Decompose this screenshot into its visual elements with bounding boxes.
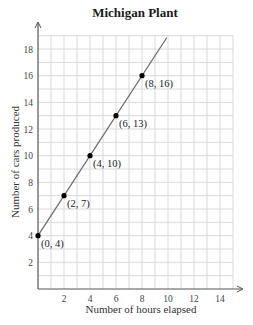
data-point-label: (6, 13) [119,118,147,130]
tick-labels: 246810121424681012141618 [24,45,226,304]
data-point [35,233,40,238]
x-axis-label: Number of hours elapsed [86,303,197,315]
data-point [61,193,66,198]
grid [38,36,233,289]
y-tick-label: 12 [24,125,34,135]
data-point [113,113,118,118]
y-axis-label: Number of cars produced [9,105,21,218]
data-point [139,73,144,78]
y-tick-label: 2 [28,258,33,268]
y-tick-label: 14 [24,98,34,108]
data-point-label: (0, 4) [41,238,64,250]
data-series: (0, 4)(2, 7)(4, 10)(6, 13)(8, 16) [35,38,173,250]
data-point-label: (4, 10) [93,158,121,170]
data-point-label: (8, 16) [145,78,173,90]
y-tick-label: 4 [28,231,33,241]
y-tick-label: 10 [24,151,34,161]
y-tick-label: 18 [24,45,34,55]
x-tick-label: 14 [215,294,225,304]
trend-line [38,38,167,236]
data-point [87,153,92,158]
data-point-label: (2, 7) [67,198,90,210]
chart: Michigan Plant 246810121424681012141618 … [0,0,253,325]
y-tick-label: 6 [28,205,33,215]
y-tick-label: 8 [28,178,33,188]
chart-title: Michigan Plant [92,5,178,20]
y-tick-label: 16 [24,71,34,81]
x-tick-label: 2 [62,294,67,304]
